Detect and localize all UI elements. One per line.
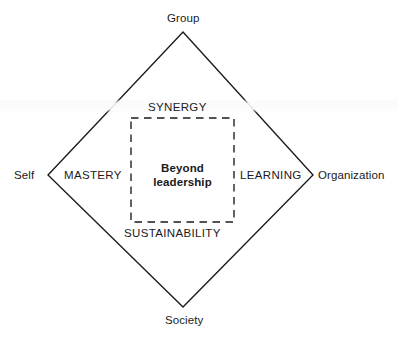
- vertex-label-organization: Organization: [318, 169, 384, 181]
- quadrant-label-synergy: SYNERGY: [148, 101, 207, 113]
- center-label-beyond-leadership: Beyond leadership: [133, 161, 232, 189]
- quadrant-label-mastery: MASTERY: [64, 169, 122, 181]
- vertex-label-self: Self: [14, 169, 34, 181]
- diagram-canvas: Group Organization Society Self SYNERGY …: [0, 0, 398, 343]
- center-label-line-2: leadership: [133, 175, 232, 189]
- vertex-label-group: Group: [167, 12, 199, 24]
- vertex-label-society: Society: [165, 314, 203, 326]
- center-label-line-1: Beyond: [133, 161, 232, 175]
- quadrant-label-learning: LEARNING: [240, 169, 302, 181]
- quadrant-label-sustainability: SUSTAINABILITY: [124, 227, 221, 239]
